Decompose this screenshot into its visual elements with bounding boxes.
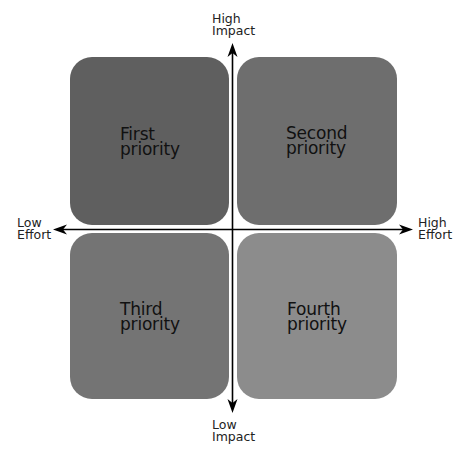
high-effort-label: High Effort bbox=[418, 217, 452, 241]
high-impact-label: High Impact bbox=[212, 13, 255, 37]
axis-label-line2: Effort bbox=[17, 229, 51, 241]
low-impact-label: Low Impact bbox=[212, 419, 255, 443]
axis-label-line2: Effort bbox=[418, 229, 452, 241]
axis-label-line2: Impact bbox=[212, 431, 255, 443]
axes bbox=[0, 0, 467, 456]
axis-label-line2: Impact bbox=[212, 25, 255, 37]
low-effort-label: Low Effort bbox=[17, 217, 51, 241]
